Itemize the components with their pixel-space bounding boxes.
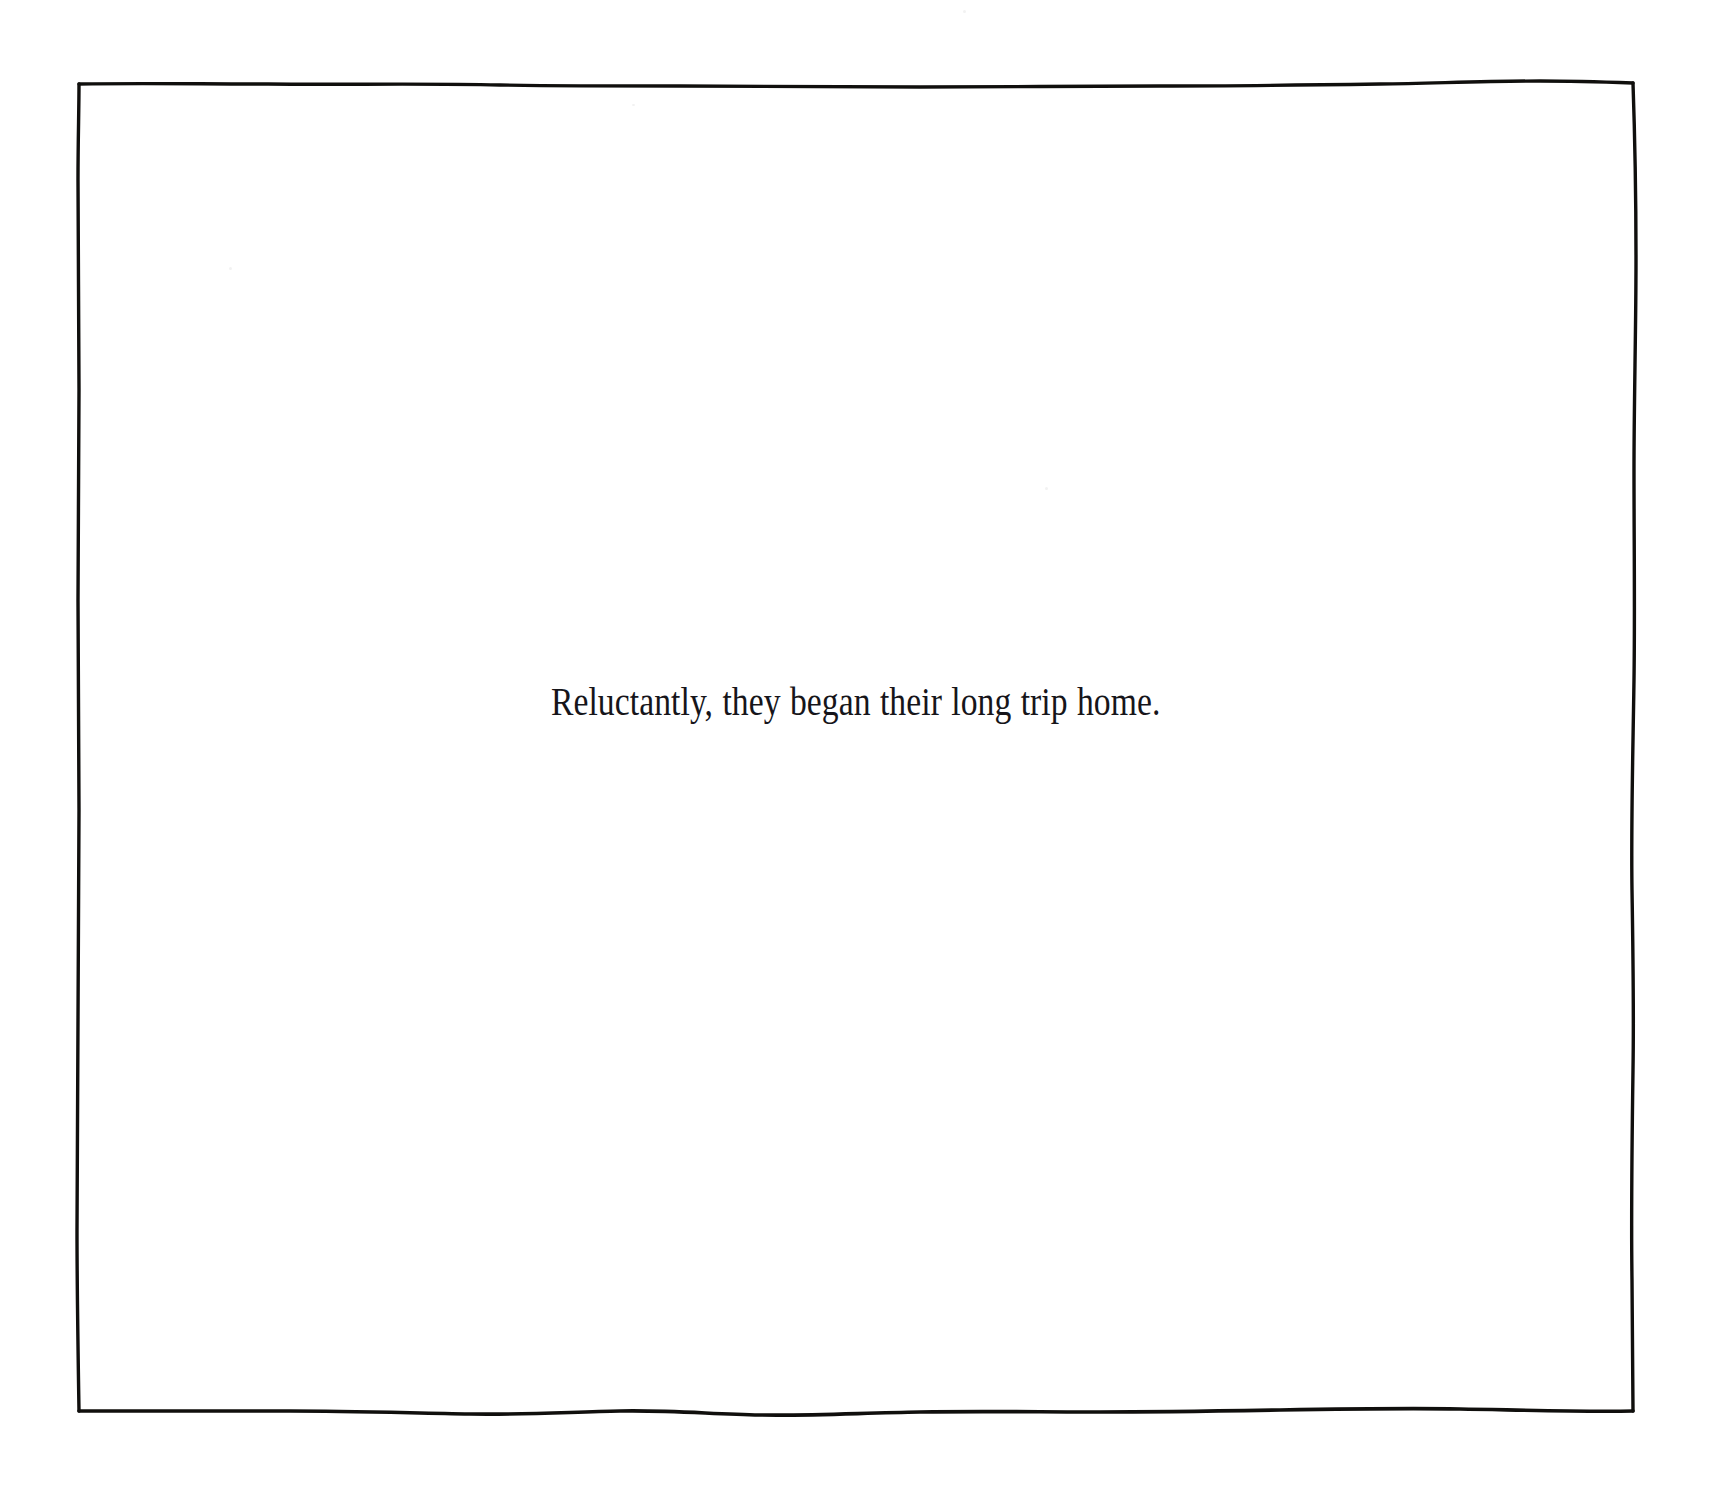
caption-text: Reluctantly, they began their long trip … — [551, 678, 1161, 725]
caption-area: Reluctantly, they began their long trip … — [78, 83, 1633, 1412]
storybook-page: Reluctantly, they began their long trip … — [0, 0, 1710, 1502]
paper-speck — [963, 10, 966, 13]
